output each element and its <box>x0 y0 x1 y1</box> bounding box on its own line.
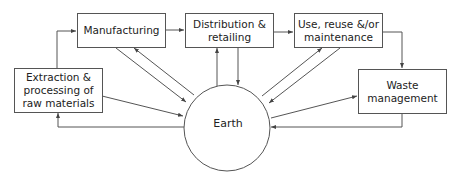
node-distribution: Distribution & retailing <box>185 13 274 48</box>
arrow-extraction-to-earth <box>102 96 183 116</box>
arrow-earth-to-use <box>262 48 322 96</box>
arrow-earth-to-manufacturing <box>134 48 194 95</box>
node-extraction: Extraction & processing of raw materials <box>14 68 103 113</box>
node-manufacturing: Manufacturing <box>77 13 166 48</box>
arrow-manufacturing-to-earth <box>116 48 186 102</box>
node-use-reuse-maintenance: Use, reuse &/or maintenance <box>294 13 383 48</box>
arrow-extraction-to-manufacturing <box>57 31 76 68</box>
node-earth-label: Earth <box>213 117 243 130</box>
arrow-use-to-earth <box>269 48 340 103</box>
arrow-use-to-waste <box>382 32 402 68</box>
node-waste-management: Waste management <box>358 69 447 114</box>
arrow-waste-to-earth <box>271 113 402 127</box>
arrow-earth-to-waste <box>271 96 357 118</box>
arrow-earth-to-extraction <box>58 113 184 127</box>
